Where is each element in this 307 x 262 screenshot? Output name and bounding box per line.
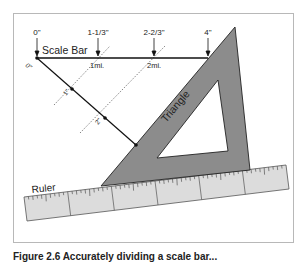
inch-label-1: 1-1/3" [87, 28, 108, 37]
inch-label-3: 4" [204, 28, 211, 37]
scale-bar-title: Scale Bar [42, 44, 88, 56]
scale-bar [35, 56, 208, 60]
inch-label-2: 2-2/3" [143, 28, 164, 37]
inch-label-0: 0" [33, 28, 40, 37]
ruler-label: Ruler [31, 181, 57, 195]
mile-label-2: 2mi. [147, 61, 161, 70]
diagonal-origin-label: 0" [24, 61, 34, 71]
diagonal-line [37, 58, 138, 147]
mile-label-1: 1mi. [90, 61, 104, 70]
figure-caption: Figure 2.6 Accurately dividing a scale b… [13, 251, 217, 262]
